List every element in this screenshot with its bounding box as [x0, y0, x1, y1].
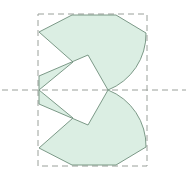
sawtooth-arc-region-top: [39, 15, 146, 90]
geometry-canvas: [0, 0, 188, 182]
sawtooth-arc-region-bottom: [39, 90, 146, 165]
figure-root: [0, 0, 188, 182]
